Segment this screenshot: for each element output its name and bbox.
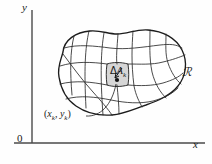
x-axis-label: x [193, 139, 198, 150]
paren-close: ) [67, 108, 70, 119]
sample-point-label: (xk, yk) [44, 109, 71, 122]
delta-symbol: Δ [110, 65, 117, 76]
figure-container: y x 0 ℛ ΔAk (xk, yk) [0, 0, 212, 164]
cell-area-subscript: k [123, 71, 126, 79]
region-partition-diagram [0, 0, 212, 164]
y-axis-label: y [22, 2, 27, 13]
cell-area-label: ΔAk [110, 66, 126, 79]
origin-label: 0 [17, 133, 23, 144]
region-label: ℛ [182, 66, 192, 78]
